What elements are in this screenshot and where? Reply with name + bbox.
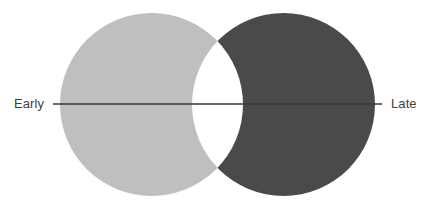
axis-label-early: Early — [14, 97, 44, 110]
venn-diagram: Early Late — [0, 0, 435, 208]
venn-svg — [0, 0, 435, 208]
axis-label-late: Late — [391, 97, 417, 110]
